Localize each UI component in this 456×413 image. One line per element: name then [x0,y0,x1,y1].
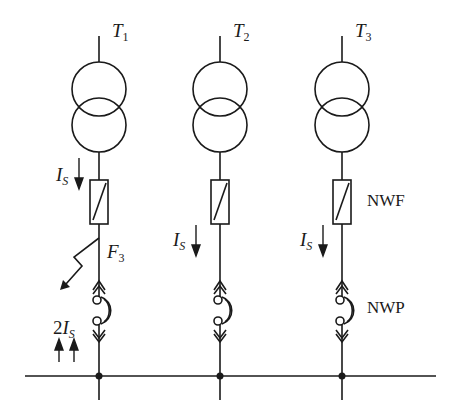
label-nwp: NWP [367,299,405,316]
label-t2: T2 [233,21,250,43]
label-fault-f3: F3 [107,242,125,264]
label-nwf: NWF [367,192,405,209]
transformer-winding-primary [72,62,126,116]
junction-dot [339,373,346,380]
label-current-t2: IS [173,230,185,252]
junction-dot [96,373,103,380]
label-fault-current: 2IS [53,318,75,340]
fault-lightning-icon [66,238,99,284]
transformer-winding-secondary [72,98,126,152]
feeder-t3 [315,36,369,400]
feeder-t2 [193,36,247,400]
label-t1: T1 [112,21,129,43]
feeder-t1 [72,36,126,400]
junction-dot [217,373,224,380]
diagram-canvas: T1 T2 T3 IS IS IS F3 2IS NWF NWP [0,0,456,413]
label-t3: T3 [355,21,372,43]
label-current-t1: IS [56,165,68,187]
label-current-t3: IS [300,230,312,252]
